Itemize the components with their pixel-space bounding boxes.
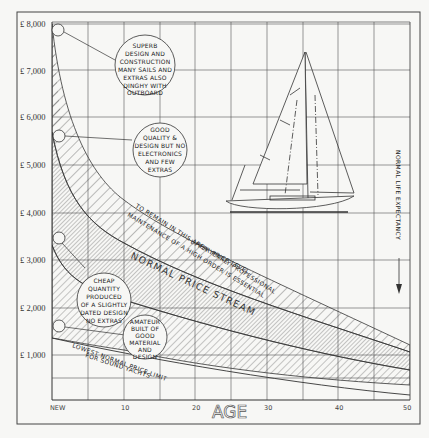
svg-text:DESIGN BUT NO: DESIGN BUT NO bbox=[135, 142, 186, 149]
svg-text:£ 6,000: £ 6,000 bbox=[20, 112, 46, 122]
marker-good bbox=[53, 130, 65, 142]
svg-text:MATERIAL: MATERIAL bbox=[129, 339, 161, 346]
svg-text:AMATEUR: AMATEUR bbox=[130, 318, 160, 325]
note-cheap: CHEAP QUANTITY PRODUCED OF A SLIGHTLY DA… bbox=[77, 273, 131, 327]
note-good: GOOD QUALITY & DESIGN BUT NO ELECTRONICS… bbox=[133, 123, 187, 177]
svg-text:QUALITY &: QUALITY & bbox=[143, 134, 177, 141]
marker-cheap bbox=[53, 232, 65, 244]
svg-text:£ 8,000: £ 8,000 bbox=[20, 19, 46, 29]
svg-text:£ 5,000: £ 5,000 bbox=[20, 160, 46, 170]
svg-text:30: 30 bbox=[264, 404, 272, 412]
svg-text:BUILT OF: BUILT OF bbox=[131, 325, 159, 332]
svg-text:AND: AND bbox=[138, 346, 152, 353]
svg-text:CONSTRUCTION: CONSTRUCTION bbox=[120, 58, 171, 65]
svg-text:10: 10 bbox=[121, 404, 129, 412]
note-amateur: AMATEUR BUILT OF GOOD MATERIAL AND DESIG… bbox=[123, 315, 167, 360]
svg-text:50: 50 bbox=[403, 404, 411, 412]
svg-text:£ 7,000: £ 7,000 bbox=[20, 66, 46, 76]
marker-superb bbox=[52, 24, 64, 36]
svg-text:NEW: NEW bbox=[50, 404, 66, 412]
svg-text:MANY SAILS AND: MANY SAILS AND bbox=[118, 66, 172, 73]
svg-text:EXTRAS: EXTRAS bbox=[148, 166, 173, 173]
svg-text:PRODUCED: PRODUCED bbox=[86, 293, 122, 300]
note-superb: SUPERB DESIGN AND CONSTRUCTION MANY SAIL… bbox=[115, 35, 175, 96]
x-axis-title: AGE bbox=[212, 402, 247, 422]
svg-text:£ 4,000: £ 4,000 bbox=[20, 208, 46, 218]
svg-text:AND FEW: AND FEW bbox=[145, 158, 175, 165]
svg-text:DINGHY WITH: DINGHY WITH bbox=[123, 82, 167, 89]
svg-text:SUPERB: SUPERB bbox=[132, 42, 157, 49]
svg-text:QUANTITY: QUANTITY bbox=[88, 285, 120, 292]
y-axis-labels: £ 8,000 £ 7,000 £ 6,000 £ 5,000 £ 4,000 … bbox=[20, 19, 46, 360]
svg-text:OF A SLIGHTLY: OF A SLIGHTLY bbox=[81, 301, 128, 308]
svg-text:EXTRAS ALSO: EXTRAS ALSO bbox=[123, 74, 166, 81]
svg-text:GOOD: GOOD bbox=[150, 126, 170, 133]
svg-text:CHEAP: CHEAP bbox=[93, 277, 114, 284]
svg-text:DESIGN AND: DESIGN AND bbox=[125, 50, 165, 57]
svg-text:£ 1,000: £ 1,000 bbox=[20, 350, 46, 360]
marker-amateur bbox=[53, 320, 65, 332]
yacht-price-chart: SUPERB DESIGN AND CONSTRUCTION MANY SAIL… bbox=[0, 0, 429, 438]
svg-text:NO EXTRAS: NO EXTRAS bbox=[86, 317, 122, 324]
svg-text:OUTBOARD: OUTBOARD bbox=[127, 89, 163, 96]
svg-text:20: 20 bbox=[192, 404, 200, 412]
svg-text:40: 40 bbox=[335, 404, 343, 412]
label-normal-life-expectancy: NORMAL LIFE EXPECTANCY bbox=[395, 150, 402, 240]
sailboat-illustration bbox=[226, 52, 354, 212]
svg-text:£ 3,000: £ 3,000 bbox=[20, 255, 46, 265]
svg-text:ELECTRONICS: ELECTRONICS bbox=[138, 150, 182, 157]
svg-text:DESIGN: DESIGN bbox=[133, 353, 157, 360]
svg-text:GOOD: GOOD bbox=[135, 332, 155, 339]
svg-text:DATED DESIGN: DATED DESIGN bbox=[80, 309, 128, 316]
svg-text:£ 2,000: £ 2,000 bbox=[20, 303, 46, 313]
